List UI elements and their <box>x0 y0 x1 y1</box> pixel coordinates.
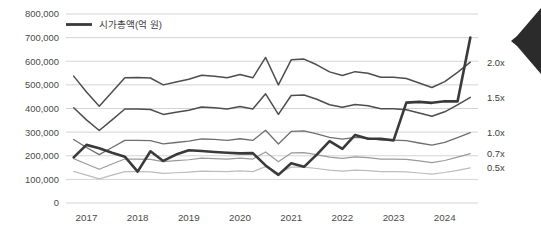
series-line <box>74 38 471 175</box>
y-axis-tick-label: 0 <box>54 197 59 208</box>
y-axis-tick-label: 600,000 <box>25 56 59 67</box>
band-label-2-0x: 2.0x <box>487 57 505 68</box>
series-line <box>74 94 471 131</box>
band-label-0-7x: 0.7x <box>487 148 505 159</box>
y-axis-tick-label: 400,000 <box>25 103 59 114</box>
chart-container: 0100,000200,000300,000400,000500,000600,… <box>0 0 541 245</box>
series-line <box>74 167 471 179</box>
x-axis-tick-label: 2020 <box>229 212 251 223</box>
x-axis-tick-label: 2021 <box>280 212 302 223</box>
x-axis-tick-label: 2017 <box>76 212 98 223</box>
band-label-1-0x: 1.0x <box>487 127 505 138</box>
series-line <box>74 57 471 106</box>
series-line <box>74 130 471 154</box>
x-axis-tick-label: 2023 <box>383 212 405 223</box>
y-axis-tick-label: 100,000 <box>25 174 59 185</box>
y-axis-tick-label: 300,000 <box>25 127 59 138</box>
band-label-0-5x: 0.5x <box>487 162 505 173</box>
y-axis-tick-label: 200,000 <box>25 150 59 161</box>
y-axis-tick-label: 700,000 <box>25 32 59 43</box>
x-axis-tick-label: 2018 <box>127 212 149 223</box>
y-axis-tick-labels: 0100,000200,000300,000400,000500,000600,… <box>25 8 59 208</box>
chart-legend: 시가총액(억 원) <box>66 19 162 30</box>
x-axis-tick-labels: 20172018201920202021202220232024 <box>76 212 457 223</box>
band-label-1-5x: 1.5x <box>487 92 505 103</box>
band-multiple-labels: 2.0x1.5x1.0x0.7x0.5x <box>487 57 505 174</box>
x-axis-tick-label: 2019 <box>178 212 200 223</box>
y-axis-tick-label: 500,000 <box>25 79 59 90</box>
legend-label-market-cap: 시가총액(억 원) <box>99 19 162 30</box>
pbr-band-chart: 0100,000200,000300,000400,000500,000600,… <box>0 0 541 245</box>
y-axis-tick-label: 800,000 <box>25 8 59 19</box>
x-axis-tick-label: 2024 <box>434 212 456 223</box>
x-axis-tick-label: 2022 <box>331 212 353 223</box>
